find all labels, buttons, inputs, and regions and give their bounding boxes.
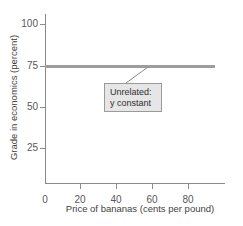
x-axis-title: Price of bananas (cents per pound): [45, 203, 235, 214]
y-tick-label-50-wrap: 50: [0, 102, 38, 112]
y-tick-label-25: 25: [0, 143, 38, 153]
y-tick-label-75-wrap: 75: [0, 61, 38, 71]
y-tick-label-100: 100: [0, 19, 38, 29]
y-tick-label-75: 75: [0, 61, 38, 71]
callout-annotation-box: Unrelated: y constant: [104, 83, 162, 112]
x-axis-line: [45, 183, 225, 184]
y-tick-label-25-wrap: 25: [0, 143, 38, 153]
y-axis-line: [45, 14, 46, 184]
callout-line-2: y constant: [110, 98, 161, 109]
y-tick-label-100-wrap: 100: [0, 19, 38, 29]
callout-leader-line: [125, 66, 149, 84]
chart-figure: 100 75 50 25 0 20 40 60 80 Unrelated: y …: [0, 0, 243, 226]
y-tick-mark-100: [40, 24, 45, 25]
y-tick-mark-25: [40, 148, 45, 149]
y-tick-mark-50: [40, 107, 45, 108]
y-tick-label-50: 50: [0, 102, 38, 112]
y-axis-title: Grade in economics (percent): [8, 23, 19, 173]
callout-line-1: Unrelated:: [110, 87, 161, 98]
